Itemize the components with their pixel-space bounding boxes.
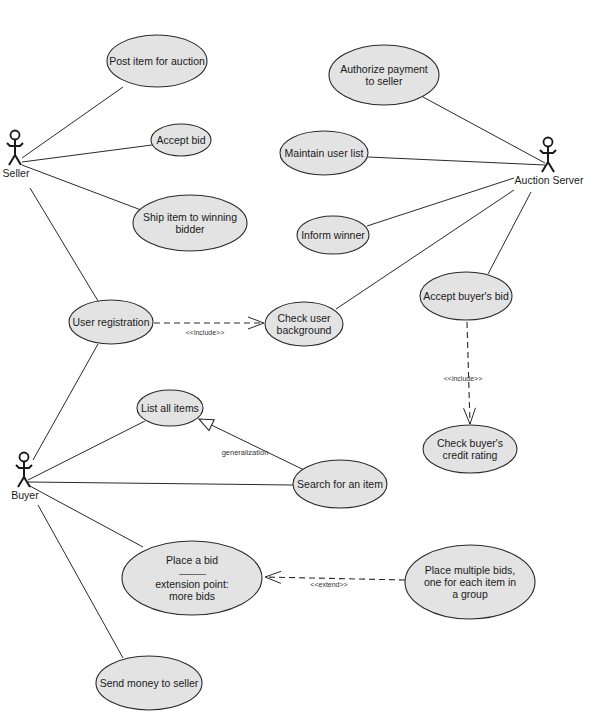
use-case-label: Search for an item bbox=[297, 478, 383, 490]
use-case-label: to seller bbox=[366, 75, 403, 87]
use-case-accept-bid[interactable]: Accept bid bbox=[151, 124, 211, 156]
include-relation-user_registration-check_background: <<include>> bbox=[154, 317, 264, 336]
use-case-maintain-users[interactable]: Maintain user list bbox=[280, 131, 368, 175]
use-case-label: bidder bbox=[175, 223, 205, 235]
actor-label: Buyer bbox=[11, 489, 39, 501]
use-case-check-credit[interactable]: Check buyer'scredit rating bbox=[423, 425, 517, 473]
include-label: <<include>> bbox=[186, 329, 225, 336]
dashed-line bbox=[467, 322, 470, 424]
use-case-label: Check buyer's bbox=[437, 437, 503, 449]
actor-auction-server[interactable]: Auction Server bbox=[515, 138, 584, 187]
use-case-place-multiple[interactable]: Place multiple bids,one for each item in… bbox=[405, 545, 535, 619]
association-auction_server-accept_buyers_bid bbox=[488, 192, 531, 274]
use-case-send-money[interactable]: Send money to seller bbox=[96, 656, 202, 710]
use-case-label: Maintain user list bbox=[285, 147, 364, 159]
use-case-label: a group bbox=[452, 588, 488, 600]
stick-figure-icon bbox=[540, 138, 556, 173]
actor-label: Auction Server bbox=[515, 174, 584, 186]
dashed-line bbox=[265, 577, 405, 580]
generalization-label: generalization bbox=[222, 448, 269, 457]
association-seller-user_registration bbox=[30, 188, 98, 301]
association-seller-post_item bbox=[22, 87, 123, 158]
use-case-label: Place multiple bids, bbox=[425, 564, 515, 576]
use-case-label: credit rating bbox=[443, 449, 498, 461]
association-auction_server-authorize_payment bbox=[423, 97, 545, 163]
use-case-label: Post item for auction bbox=[109, 55, 205, 67]
association-seller-ship_item bbox=[22, 165, 141, 210]
use-case-label: Accept bid bbox=[156, 134, 205, 146]
actor-label: Seller bbox=[3, 167, 30, 179]
use-case-place-bid[interactable]: Place a bid----------------extension poi… bbox=[122, 541, 262, 615]
use-case-accept-buyers-bid[interactable]: Accept buyer's bid bbox=[420, 272, 512, 320]
association-buyer-list_items bbox=[28, 421, 145, 480]
extend-relation-place_multiple-place_bid: <<extend>> bbox=[265, 571, 405, 588]
association-buyer-send_money bbox=[38, 505, 123, 658]
association-buyer-search_item bbox=[28, 482, 293, 485]
use-case-label: Inform winner bbox=[301, 229, 365, 241]
use-cases-layer: Post item for auctionAccept bidShip item… bbox=[69, 35, 535, 710]
use-case-label: Authorize payment bbox=[340, 63, 428, 75]
use-case-label: Accept buyer's bid bbox=[423, 290, 509, 302]
use-case-label: User registration bbox=[72, 316, 149, 328]
use-case-diagram: <<include>><<include>><<extend>>generali… bbox=[0, 0, 610, 723]
association-auction_server-inform_winner bbox=[367, 178, 514, 226]
association-seller-accept_bid bbox=[22, 145, 152, 162]
use-case-inform-winner[interactable]: Inform winner bbox=[297, 216, 369, 254]
use-case-label: more bids bbox=[169, 590, 215, 602]
extend-label: <<extend>> bbox=[310, 581, 347, 588]
association-auction_server-maintain_users bbox=[368, 157, 545, 165]
use-case-search-item[interactable]: Search for an item bbox=[293, 460, 387, 508]
use-case-label: extension point: bbox=[155, 578, 229, 590]
use-case-ship-item[interactable]: Ship item to winningbidder bbox=[133, 195, 247, 251]
extension-divider: ---------------- bbox=[179, 569, 207, 578]
association-buyer-user_registration bbox=[33, 344, 98, 460]
stick-figure-icon bbox=[7, 131, 23, 166]
use-case-label: Ship item to winning bbox=[143, 211, 237, 223]
use-case-user-registration[interactable]: User registration bbox=[69, 300, 153, 344]
use-case-label: Send money to seller bbox=[100, 677, 199, 689]
use-case-label: background bbox=[277, 324, 332, 336]
use-case-label: List all items bbox=[141, 402, 199, 414]
use-case-authorize-payment[interactable]: Authorize paymentto seller bbox=[329, 45, 439, 105]
include-relation-accept_buyers_bid-check_credit: <<include>> bbox=[444, 322, 483, 424]
use-case-list-items[interactable]: List all items bbox=[137, 390, 203, 426]
diagram-canvas: <<include>><<include>><<extend>>generali… bbox=[0, 0, 610, 723]
association-buyer-place_bid bbox=[28, 485, 143, 547]
use-case-label: Check user bbox=[277, 312, 331, 324]
use-case-check-background[interactable]: Check userbackground bbox=[265, 302, 343, 346]
include-label: <<include>> bbox=[444, 375, 483, 382]
hollow-triangle-arrowhead-icon bbox=[199, 419, 214, 431]
use-case-label: Place a bid bbox=[166, 554, 218, 566]
use-case-label: one for each item in bbox=[424, 576, 516, 588]
use-case-post-item[interactable]: Post item for auction bbox=[107, 35, 207, 87]
